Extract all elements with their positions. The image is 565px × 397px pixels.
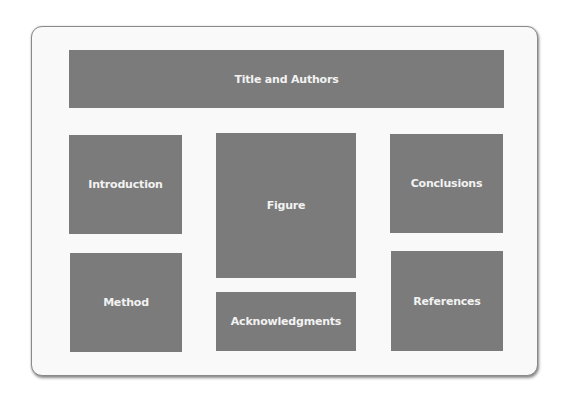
introduction-box: Introduction (69, 135, 182, 234)
title-and-authors-box: Title and Authors (69, 50, 504, 108)
references-box: References (391, 251, 503, 351)
method-label: Method (103, 296, 149, 309)
references-label: References (413, 295, 480, 308)
acknowledgments-label: Acknowledgments (231, 315, 341, 328)
introduction-label: Introduction (88, 178, 162, 191)
conclusions-box: Conclusions (390, 134, 503, 233)
conclusions-label: Conclusions (411, 177, 483, 190)
figure-box: Figure (216, 133, 356, 278)
title-and-authors-label: Title and Authors (234, 73, 338, 86)
figure-label: Figure (267, 199, 306, 212)
method-box: Method (70, 253, 182, 352)
acknowledgments-box: Acknowledgments (216, 292, 356, 351)
